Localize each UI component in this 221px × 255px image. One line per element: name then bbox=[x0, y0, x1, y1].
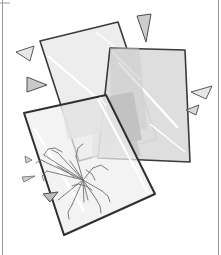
illustration-frame bbox=[0, 0, 221, 255]
broken-glass-illustration bbox=[0, 0, 221, 255]
